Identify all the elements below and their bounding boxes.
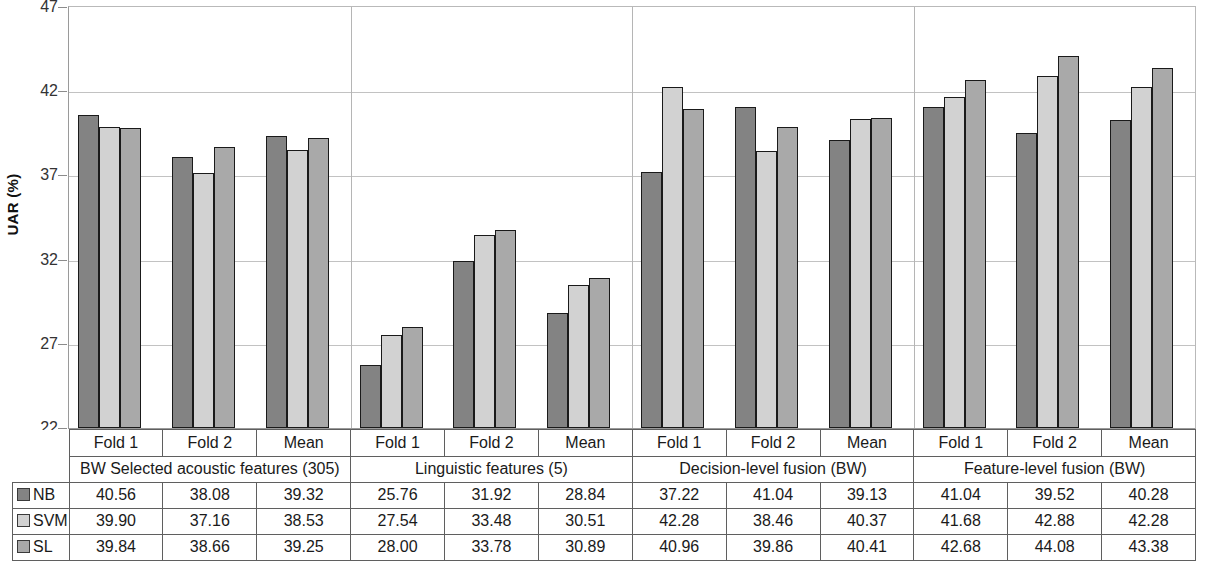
table-header-group: Linguistic features (5) (351, 457, 633, 483)
bar-group (538, 7, 632, 428)
bar-sl (683, 109, 704, 428)
table-corner-spacer (13, 430, 70, 457)
y-tick-label-37: 37 (14, 167, 58, 183)
bar-svm (1131, 87, 1152, 429)
bar-nb (360, 365, 381, 428)
bar-group (444, 7, 538, 428)
table-cell-value: 41.68 (914, 508, 1008, 534)
table-cell-value: 41.04 (914, 482, 1008, 508)
bar-svm (1037, 76, 1058, 428)
bar-major-group (351, 7, 633, 428)
data-table-wrapper: Fold 1Fold 2MeanFold 1Fold 2MeanFold 1Fo… (12, 429, 1196, 561)
bars-layer (69, 7, 1195, 428)
table-cell-value: 43.38 (1102, 534, 1196, 560)
bar-nb (453, 261, 474, 428)
bar-group (351, 7, 445, 428)
y-tick-label-32: 32 (14, 252, 58, 268)
bar-sl (308, 138, 329, 428)
legend-cell-sl: SL (13, 534, 70, 560)
table-cell-value: 27.54 (351, 508, 445, 534)
table-header-fold: Mean (1102, 430, 1196, 457)
table-header-row-folds: Fold 1Fold 2MeanFold 1Fold 2MeanFold 1Fo… (13, 430, 1196, 457)
table-cell-value: 25.76 (351, 482, 445, 508)
table-header-row-groups: BW Selected acoustic features (305)Lingu… (13, 457, 1196, 483)
table-cell-value: 39.25 (257, 534, 351, 560)
bar-major-group (632, 7, 914, 428)
table-cell-value: 28.00 (351, 534, 445, 560)
bar-group (914, 7, 1008, 428)
table-cell-value: 30.89 (538, 534, 632, 560)
table-cell-value: 33.78 (445, 534, 539, 560)
bar-nb (547, 313, 568, 428)
table-cell-value: 42.28 (1102, 508, 1196, 534)
bar-sl (965, 80, 986, 428)
table-cell-value: 38.46 (726, 508, 820, 534)
y-tick-mark-27 (58, 344, 67, 345)
bar-nb (172, 157, 193, 428)
table-cell-value: 38.53 (257, 508, 351, 534)
legend-swatch-icon (17, 540, 30, 553)
legend-label: SL (33, 538, 53, 555)
table-row: SL39.8438.6639.2528.0033.7830.8940.9639.… (13, 534, 1196, 560)
table-row: NB40.5638.0839.3225.7631.9228.8437.2241.… (13, 482, 1196, 508)
bar-svm (474, 235, 495, 428)
table-header-fold: Fold 2 (1008, 430, 1102, 457)
bar-svm (944, 97, 965, 428)
bar-svm (381, 335, 402, 428)
y-tick-mark-32 (58, 260, 67, 261)
bar-nb (829, 140, 850, 428)
y-axis-tick-labels: 474237322722 (0, 0, 58, 440)
bar-nb (1016, 133, 1037, 428)
table-corner-spacer (13, 457, 70, 483)
table-cell-value: 40.28 (1102, 482, 1196, 508)
bar-svm (850, 119, 871, 428)
table-header-group: Feature-level fusion (BW) (914, 457, 1196, 483)
table-cell-value: 31.92 (445, 482, 539, 508)
bar-major-group (914, 7, 1196, 428)
table-cell-value: 42.28 (632, 508, 726, 534)
bar-major-group (69, 7, 351, 428)
bar-nb (923, 107, 944, 428)
bar-svm (193, 173, 214, 428)
table-header-fold: Fold 2 (163, 430, 257, 457)
table-header-fold: Mean (257, 430, 351, 457)
bar-sl (495, 230, 516, 428)
table-header-fold: Fold 1 (69, 430, 163, 457)
bar-sl (120, 128, 141, 428)
table-cell-value: 30.51 (538, 508, 632, 534)
bar-nb (78, 115, 99, 428)
table-cell-value: 39.13 (820, 482, 914, 508)
table-cell-value: 39.90 (69, 508, 163, 534)
bar-nb (266, 136, 287, 428)
bar-nb (735, 107, 756, 428)
bar-sl (777, 127, 798, 428)
y-tick-mark-47 (58, 7, 67, 8)
bar-svm (287, 150, 308, 428)
bar-svm (662, 87, 683, 429)
bar-group (257, 7, 351, 428)
legend-label: SVM (33, 512, 68, 529)
table-header-fold: Mean (820, 430, 914, 457)
table-cell-value: 39.32 (257, 482, 351, 508)
bar-group (632, 7, 726, 428)
table-header-fold: Fold 1 (914, 430, 1008, 457)
legend-cell-svm: SVM (13, 508, 70, 534)
data-table: Fold 1Fold 2MeanFold 1Fold 2MeanFold 1Fo… (12, 429, 1196, 561)
table-cell-value: 28.84 (538, 482, 632, 508)
table-cell-value: 41.04 (726, 482, 820, 508)
bar-nb (1110, 120, 1131, 428)
bar-sl (871, 118, 892, 428)
bar-sl (214, 147, 235, 428)
table-cell-value: 42.68 (914, 534, 1008, 560)
table-cell-value: 44.08 (1008, 534, 1102, 560)
bar-group (820, 7, 914, 428)
bar-group (1101, 7, 1195, 428)
y-tick-label-27: 27 (14, 336, 58, 352)
bar-group (163, 7, 257, 428)
table-cell-value: 39.86 (726, 534, 820, 560)
table-cell-value: 42.88 (1008, 508, 1102, 534)
legend-swatch-icon (17, 488, 30, 501)
table-cell-value: 38.08 (163, 482, 257, 508)
table-cell-value: 33.48 (445, 508, 539, 534)
table-header-group: BW Selected acoustic features (305) (69, 457, 351, 483)
